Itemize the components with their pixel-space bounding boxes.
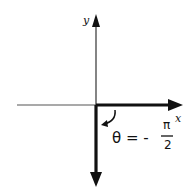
theta-symbol: θ = — [112, 129, 139, 147]
x-axis-label: x — [175, 112, 181, 125]
down-arrowhead-icon — [90, 172, 102, 187]
y-axis-label: y — [83, 14, 89, 27]
theta-equals: θ = - — [112, 129, 149, 147]
fraction-denominator: 2 — [164, 138, 172, 152]
minus-sign: - — [143, 129, 148, 147]
rotation-arrowhead-icon — [101, 120, 108, 127]
polar-angle-diagram: y x θ = - π 2 — [0, 0, 194, 194]
y-axis-arrowhead-icon — [92, 14, 100, 27]
x-arrowhead-icon — [168, 99, 183, 111]
fraction-numerator: π — [163, 118, 170, 132]
axes-graphic — [0, 0, 194, 194]
